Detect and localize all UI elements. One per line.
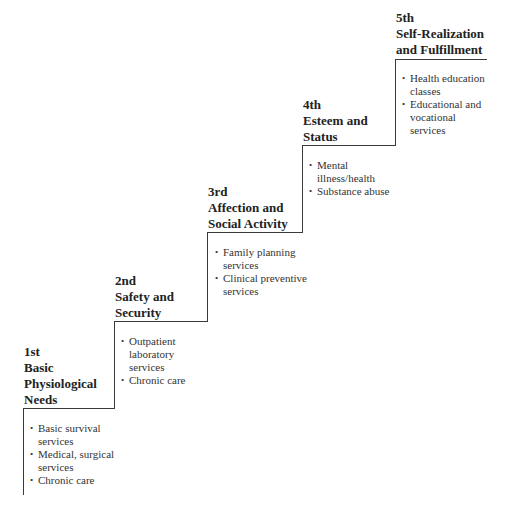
step-5-title-line: and Fulfillment bbox=[396, 42, 484, 58]
step-4-tread bbox=[302, 145, 395, 146]
step-1-services-list: Basic survivalservices Medical, surgical… bbox=[30, 422, 114, 487]
step-1-heading: 1st Basic Physiological Needs bbox=[24, 344, 97, 408]
step-2-services-list: Outpatientlaboratoryservices Chronic car… bbox=[121, 335, 186, 387]
step-5-rank: 5th bbox=[396, 10, 484, 26]
step-3-title-line: Affection and bbox=[208, 200, 288, 216]
step-1-title-line: Needs bbox=[24, 392, 97, 408]
step-2-heading: 2nd Safety and Security bbox=[115, 273, 174, 321]
step-1-tread bbox=[23, 408, 114, 409]
step-1-riser bbox=[23, 408, 24, 495]
list-item: Medical, surgicalservices bbox=[30, 448, 114, 474]
step-5-heading: 5th Self-Realization and Fulfillment bbox=[396, 10, 484, 58]
step-3-tread bbox=[207, 232, 302, 233]
step-3-services-list: Family planningservices Clinical prevent… bbox=[215, 246, 307, 298]
step-2-title-line: Safety and bbox=[115, 289, 174, 305]
step-5-tread bbox=[395, 59, 487, 60]
list-item: Educational andvocationalservices bbox=[402, 98, 485, 137]
step-3-title-line: Social Activity bbox=[208, 216, 288, 232]
step-2-tread bbox=[114, 321, 207, 322]
step-5-riser bbox=[395, 59, 396, 146]
step-5-title-line: Self-Realization bbox=[396, 26, 484, 42]
step-1-rank: 1st bbox=[24, 344, 97, 360]
list-item: Substance abuse bbox=[309, 185, 389, 198]
step-2-riser bbox=[114, 321, 115, 409]
list-item: Health educationclasses bbox=[402, 72, 485, 98]
step-4-rank: 4th bbox=[303, 97, 368, 113]
list-item: Mentalillness/health bbox=[309, 159, 389, 185]
step-2-title-line: Security bbox=[115, 305, 174, 321]
list-item: Basic survivalservices bbox=[30, 422, 114, 448]
step-4-services-list: Mentalillness/health Substance abuse bbox=[309, 159, 389, 198]
step-4-riser bbox=[302, 145, 303, 233]
list-item: Chronic care bbox=[30, 474, 114, 487]
step-5-services-list: Health educationclasses Educational andv… bbox=[402, 72, 485, 137]
list-item: Family planningservices bbox=[215, 246, 307, 272]
step-1-title-line: Basic bbox=[24, 360, 97, 376]
step-3-rank: 3rd bbox=[208, 184, 288, 200]
step-4-title-line: Esteem and bbox=[303, 113, 368, 129]
list-item: Clinical preventiveservices bbox=[215, 272, 307, 298]
step-1-title-line: Physiological bbox=[24, 376, 97, 392]
step-2-rank: 2nd bbox=[115, 273, 174, 289]
step-4-title-line: Status bbox=[303, 129, 368, 145]
step-4-heading: 4th Esteem and Status bbox=[303, 97, 368, 145]
list-item: Chronic care bbox=[121, 374, 186, 387]
step-3-heading: 3rd Affection and Social Activity bbox=[208, 184, 288, 232]
list-item: Outpatientlaboratoryservices bbox=[121, 335, 186, 374]
step-3-riser bbox=[207, 232, 208, 322]
